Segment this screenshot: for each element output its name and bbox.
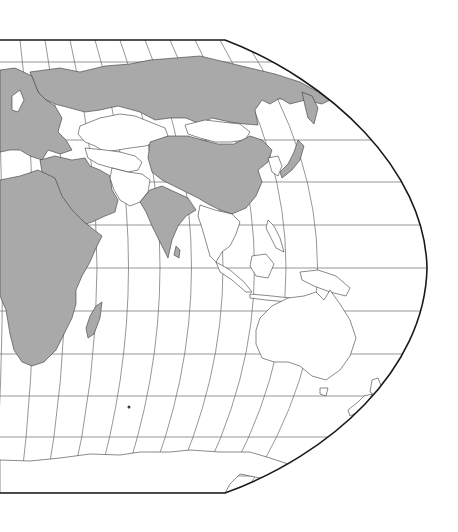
island-kerguelen (128, 406, 131, 409)
world-map (0, 0, 458, 532)
